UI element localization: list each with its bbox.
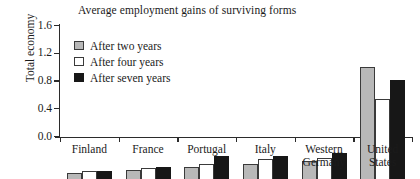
x-axis-category-label: Portugal: [177, 143, 236, 156]
x-axis-category-label: Western Germany: [295, 143, 354, 168]
bar-chart: Average employment gains of surviving fo…: [0, 0, 420, 179]
bar: [199, 164, 214, 179]
legend-item: After four years: [74, 54, 170, 69]
x-axis-separator-tick: [295, 137, 296, 142]
y-axis-tick: [54, 53, 60, 54]
legend-item: After seven years: [74, 70, 170, 85]
bar: [214, 156, 229, 179]
y-axis-tick-label-text: 0.4: [24, 103, 52, 115]
bar-group: [243, 68, 288, 179]
x-axis-category-label: United States: [353, 143, 412, 168]
bar: [97, 171, 112, 179]
x-axis-separator-tick: [412, 137, 413, 142]
legend-item-label: After four years: [90, 56, 163, 68]
bar: [243, 164, 258, 179]
legend-item: After two years: [74, 38, 170, 53]
y-axis-tick-label-text: 0.8: [24, 75, 52, 87]
chart-legend: After two yearsAfter four yearsAfter sev…: [74, 38, 170, 86]
legend-swatch-icon: [74, 41, 84, 50]
y-axis-tick-label-text: 1.6: [24, 20, 52, 32]
bar: [184, 167, 199, 179]
y-axis-tick-label: 0.4: [20, 103, 52, 115]
bar: [82, 171, 97, 179]
bar: [141, 168, 156, 179]
x-axis-category-label: Italy: [236, 143, 295, 156]
y-axis-tick-label-text: 0.0: [24, 131, 52, 143]
legend-item-label: After two years: [90, 40, 162, 52]
y-axis-tick-label: 1.6: [20, 20, 52, 32]
y-axis-tick: [54, 108, 60, 109]
legend-item-label: After seven years: [90, 72, 170, 84]
x-axis-separator-tick: [236, 137, 237, 142]
y-axis-tick-label: 0.0: [20, 131, 52, 143]
y-axis-tick: [54, 25, 60, 26]
bar: [258, 159, 273, 179]
x-axis-category-label: France: [119, 143, 178, 156]
y-axis-tick-label: 1.2: [20, 47, 52, 59]
legend-swatch-icon: [74, 57, 84, 66]
chart-title: Average employment gains of surviving fo…: [78, 4, 296, 16]
y-axis-tick-label-text: 1.2: [24, 47, 52, 59]
bar: [156, 167, 171, 179]
x-axis-separator-tick: [119, 137, 120, 142]
bar: [67, 173, 82, 179]
x-axis-category-label: Finland: [60, 143, 119, 156]
x-axis-separator-tick: [60, 137, 61, 142]
x-axis-separator-tick: [177, 137, 178, 142]
bar: [273, 156, 288, 179]
bar-group: [184, 68, 229, 179]
x-axis-separator-tick: [353, 137, 354, 142]
legend-swatch-icon: [74, 73, 84, 82]
y-axis-tick: [54, 80, 60, 81]
bar: [126, 170, 141, 179]
y-axis-tick-label: 0.8: [20, 75, 52, 87]
